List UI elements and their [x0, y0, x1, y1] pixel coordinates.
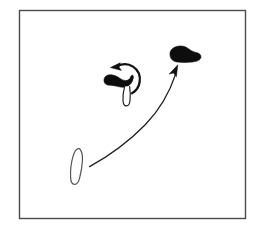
canvas-background: [0, 0, 262, 237]
center-tail: [123, 86, 130, 106]
diagram-canvas: [0, 0, 262, 237]
motion-diagram: [0, 0, 262, 237]
